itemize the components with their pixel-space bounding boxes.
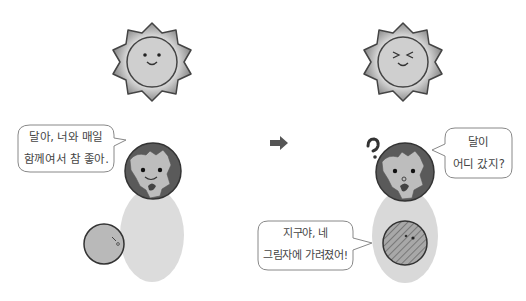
speech-text-earth-before: 달아, 너와 매일 함께여서 참 좋아. bbox=[18, 126, 114, 170]
speech-line: 달아, 너와 매일 bbox=[18, 126, 114, 148]
speech-line: 함께여서 참 좋아. bbox=[18, 148, 114, 170]
speech-text-moon-after: 지구야, 네 그림자에 가려졌어! bbox=[258, 223, 353, 267]
shaded-moon-icon bbox=[383, 221, 427, 265]
worried-earth-icon bbox=[125, 143, 181, 199]
earth-shadow bbox=[120, 188, 184, 282]
speech-line: 어디 갔지? bbox=[445, 153, 512, 175]
speech-text-earth-after: 달이 어디 갔지? bbox=[445, 131, 512, 175]
speech-line: 그림자에 가려졌어! bbox=[258, 245, 353, 267]
lunar-eclipse-illustration: 달아, 너와 매일 함께여서 참 좋아. 달이 어디 갔지? 지구야, 네 그림… bbox=[0, 0, 526, 301]
laughing-sun-icon bbox=[364, 23, 442, 101]
speech-line: 달이 bbox=[445, 131, 512, 153]
moon-icon bbox=[84, 224, 124, 264]
question-mark-icon bbox=[368, 139, 378, 151]
confused-earth-icon bbox=[368, 139, 434, 201]
smiling-sun-icon bbox=[113, 23, 191, 101]
right-arrow-icon bbox=[270, 136, 288, 150]
speech-line: 지구야, 네 bbox=[258, 223, 353, 245]
